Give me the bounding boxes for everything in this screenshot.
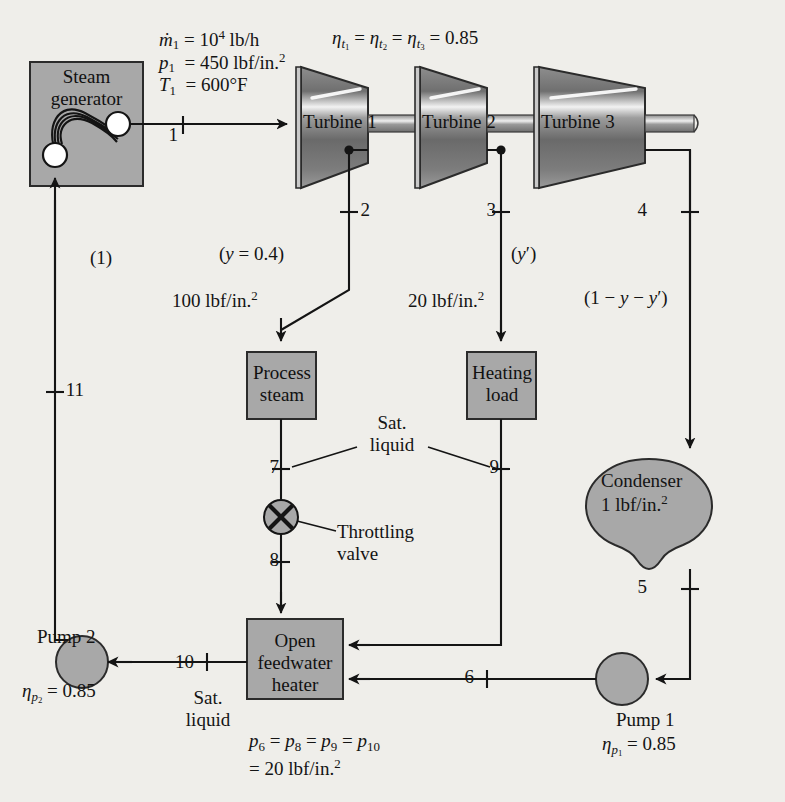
pump-1-component: [596, 653, 648, 705]
condenser-label: Condenser: [601, 470, 682, 492]
state-point-8: 8: [270, 549, 280, 571]
state-point-6: 6: [465, 666, 475, 688]
sat-liquid-mid-label: Sat.liquid: [356, 412, 428, 457]
pump-1-label: Pump 1: [616, 709, 675, 731]
inlet-pressure-label: p1 = 450 lbf/in.2: [159, 50, 286, 76]
tap-node-2: [344, 145, 353, 154]
extraction-1-fraction-label: (y = 0.4): [219, 243, 284, 265]
process-steam-label: Processsteam: [243, 362, 321, 406]
condenser-pressure-label: 1 lbf/in.2: [601, 492, 668, 516]
line-state-4-part1: [645, 150, 690, 300]
tap-node-3: [496, 145, 505, 154]
extraction-1-pressure-label: 100 lbf/in.2: [172, 288, 258, 312]
state-point-1: 1: [169, 124, 179, 146]
throttling-valve-label: Throttlingvalve: [337, 521, 414, 566]
pump-2-efficiency-label: ηp2 = 0.85: [22, 680, 96, 705]
pump-2-label: Pump 2: [37, 626, 96, 648]
pressure-note-line2: = 20 lbf/in.2: [249, 756, 341, 780]
turbine-3-label: Turbine 3: [541, 111, 607, 133]
state-point-7: 7: [270, 456, 280, 478]
pump-1-efficiency-label: ηp1 = 0.85: [602, 733, 676, 758]
line-extraction-2: [487, 150, 501, 341]
state-point-5: 5: [638, 576, 648, 598]
pressure-note-line1: p6 = p8 = p9 = p10: [249, 730, 380, 754]
figure-canvas: ṁ1 = 104 lb/h p1 = 450 lbf/in.2 T1 = 60…: [0, 0, 785, 802]
state-point-2: 2: [361, 199, 371, 221]
shaft-output: [645, 115, 698, 132]
inlet-mass-flow-label: ṁ1 = 104 lb/h: [159, 27, 259, 53]
line-state-5: [656, 569, 690, 679]
leader-lines: [292, 447, 490, 531]
state-point-11: 11: [66, 379, 84, 401]
extraction-2-pressure-label: 20 lbf/in.2: [408, 288, 484, 312]
extraction-2-fraction-label: (y′): [511, 243, 536, 265]
sat-liquid-pump2-label: Sat.liquid: [172, 687, 244, 732]
inlet-temperature-label: T1 = 600°F: [159, 74, 248, 98]
steam-generator-label: Steamgenerator: [30, 66, 143, 110]
state-point-10: 10: [175, 651, 194, 673]
feed-fraction-label: (1): [90, 247, 112, 269]
schematic-svg: [0, 0, 785, 802]
turbine-1-label: Turbine 1: [303, 111, 369, 133]
condenser-fraction-label: (1 − y − y′): [584, 287, 668, 309]
heating-load-label: Heatingload: [464, 362, 540, 406]
state-ticks: [46, 116, 699, 688]
state-point-9: 9: [490, 456, 500, 478]
turbine-2-label: Turbine 2: [422, 111, 488, 133]
turbine-efficiency-label: ηt1 = ηt2 = ηt3 = 0.85: [332, 27, 478, 52]
line-state-11: [55, 200, 68, 640]
open-feedwater-heater-label: Openfeedwaterheater: [247, 630, 343, 697]
throttling-valve-component: [264, 500, 298, 534]
state-point-3: 3: [487, 199, 497, 221]
state-point-4: 4: [638, 199, 648, 221]
